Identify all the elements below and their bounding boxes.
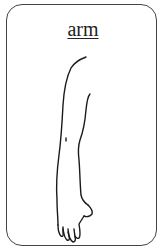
arm-illustration-icon xyxy=(0,0,166,250)
